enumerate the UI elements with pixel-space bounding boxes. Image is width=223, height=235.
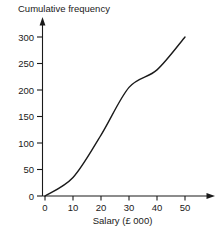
cumulative-frequency-curve [45,37,185,196]
y-tick-label-150: 150 [18,111,34,122]
y-axis-arrowhead [40,17,46,26]
x-axis-tick-labels: 0 10 20 30 40 50 [42,202,190,213]
y-tick-label-0: 0 [29,191,34,202]
y-axis-ticks [37,37,43,196]
x-tick-label-30: 30 [124,202,135,213]
x-axis-title-wrap: Salary (£ 000) [0,215,223,226]
y-tick-label-100: 100 [18,138,34,149]
x-tick-label-10: 10 [68,202,79,213]
x-tick-label-20: 20 [96,202,107,213]
x-axis-title: Salary (£ 000) [93,215,153,226]
y-tick-label-200: 200 [18,85,34,96]
chart-figure: Cumulative frequency 300 250 200 150 100… [0,0,223,235]
cumulative-frequency-line-chart: 300 250 200 150 100 50 0 0 10 20 30 40 5… [0,0,223,235]
y-axis-tick-labels: 300 250 200 150 100 50 0 [18,32,34,202]
x-tick-label-0: 0 [42,202,47,213]
y-tick-label-50: 50 [23,164,34,175]
x-axis-ticks [45,196,185,201]
x-tick-label-50: 50 [180,202,191,213]
y-tick-label-300: 300 [18,32,34,43]
x-axis-arrowhead [207,193,216,199]
x-tick-label-40: 40 [152,202,163,213]
y-tick-label-250: 250 [18,58,34,69]
